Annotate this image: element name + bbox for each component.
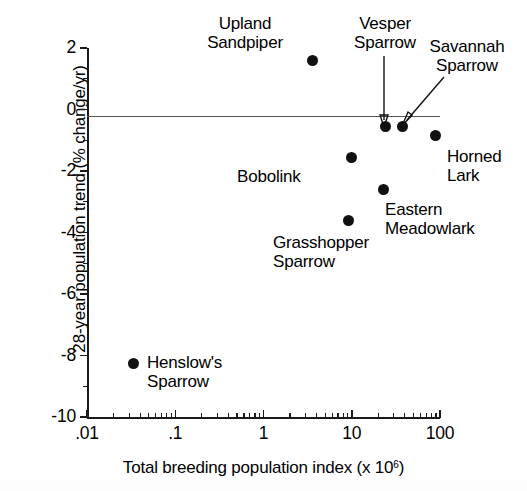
annotation-arrows — [0, 0, 527, 491]
x-axis-title-tail: ) — [399, 458, 404, 477]
scatter-plot-figure: 28-year population trend (% change/yr) 2… — [0, 0, 527, 491]
x-axis-title: Total breeding population index (x 106) — [87, 456, 440, 477]
vesper-sparrow-arrow-icon — [380, 56, 388, 127]
x-axis-title-base: Total breeding population index (x 10 — [123, 458, 393, 477]
savannah-sparrow-arrow-icon — [402, 77, 444, 126]
bottom-crop-artifact — [0, 480, 527, 491]
